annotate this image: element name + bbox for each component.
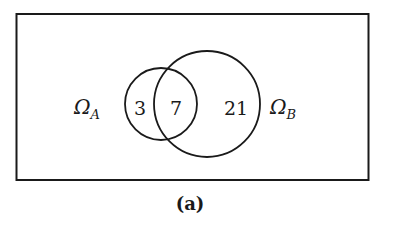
figure-caption: (a) [176,193,205,214]
set-a-label: ΩA [73,95,100,122]
venn-figure: ΩA ΩB 3 7 21 (a) [0,0,407,227]
set-b-label: ΩB [269,95,296,122]
region-intersection-count: 7 [170,97,182,119]
region-a-only-count: 3 [134,97,146,119]
region-b-only-count: 21 [224,97,248,119]
